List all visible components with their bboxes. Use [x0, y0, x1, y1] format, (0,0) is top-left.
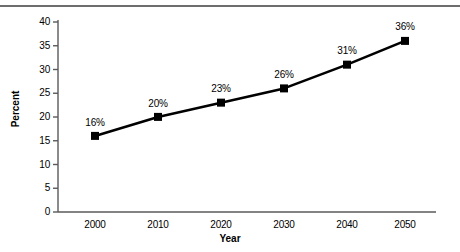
data-label-2000: 16% — [75, 118, 115, 128]
data-label-2040: 31% — [327, 46, 367, 56]
x-tick-label-2050: 2050 — [382, 220, 428, 230]
x-tick-label-2010: 2010 — [135, 220, 181, 230]
y-tick-label-5: 5 — [28, 183, 50, 193]
data-label-2050: 36% — [385, 22, 425, 32]
data-point-marker — [343, 61, 351, 69]
data-point-marker — [217, 99, 225, 107]
y-tick-label-30: 30 — [28, 65, 50, 75]
line-chart-graphic — [0, 0, 460, 252]
data-point-marker — [401, 37, 409, 45]
data-point-marker — [154, 113, 162, 121]
x-axis-title: Year — [190, 234, 270, 244]
data-label-2020: 23% — [201, 84, 241, 94]
x-tick-label-2030: 2030 — [261, 220, 307, 230]
plot-area: 40 35 30 25 20 15 10 5 0 2000 2010 2020 … — [0, 0, 460, 252]
x-tick-label-2040: 2040 — [324, 220, 370, 230]
y-tick-label-25: 25 — [28, 88, 50, 98]
x-tick-label-2020: 2020 — [198, 220, 244, 230]
y-axis-title: Percent — [11, 79, 21, 139]
data-point-marker — [280, 84, 288, 92]
x-tick-label-2000: 2000 — [72, 220, 118, 230]
data-point-marker — [91, 132, 99, 140]
chart-figure: 40 35 30 25 20 15 10 5 0 2000 2010 2020 … — [0, 0, 460, 252]
y-tick-label-10: 10 — [28, 160, 50, 170]
y-tick-label-0: 0 — [28, 207, 50, 217]
y-tick-label-15: 15 — [28, 136, 50, 146]
y-axis-ticks — [53, 22, 58, 212]
y-tick-label-35: 35 — [28, 41, 50, 51]
y-tick-label-40: 40 — [28, 17, 50, 27]
data-label-2010: 20% — [138, 99, 178, 109]
y-tick-label-20: 20 — [28, 112, 50, 122]
data-label-2030: 26% — [264, 70, 304, 80]
